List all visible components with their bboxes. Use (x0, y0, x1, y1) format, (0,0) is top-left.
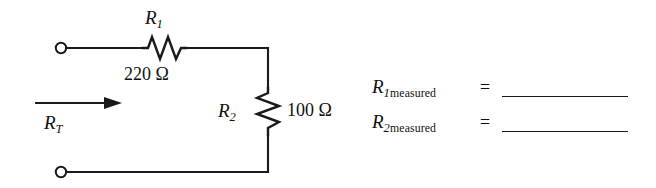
measurement-row-r2: R2measured = (372, 111, 642, 146)
resistor-r1-label: R1 (145, 8, 163, 30)
resistor-r1-symbol-text: R (145, 7, 157, 28)
measurements-block: R1measured = R2measured = (372, 76, 642, 146)
measurement-r1-label: R1measured (372, 76, 436, 101)
resistor-r1-value: 220 Ω (124, 65, 169, 83)
measurement-r2-equals: = (480, 112, 490, 133)
resistor-r1-symbol (143, 37, 186, 59)
measurement-r1-answer-blank[interactable] (502, 96, 628, 97)
resistor-r1-subscript: 1 (157, 17, 163, 31)
measurement-r1-symbol: R (372, 76, 384, 97)
circuit-worksheet-figure: R1 220 Ω R2 100 Ω RT R1measured = R2meas… (0, 0, 656, 188)
measurement-r1-subscript-word: measured (390, 87, 436, 100)
total-resistance-symbol-text: R (44, 112, 56, 133)
resistor-r2-symbol (257, 88, 279, 135)
measurement-row-r1: R1measured = (372, 76, 642, 111)
measurement-r2-label: R2measured (372, 111, 436, 136)
total-resistance-subscript: T (56, 122, 63, 136)
measurement-r1-equals: = (480, 77, 490, 98)
bottom-terminal-icon (56, 167, 66, 177)
resistor-r2-label: R2 (218, 101, 236, 123)
top-terminal-icon (56, 43, 66, 53)
resistor-r2-subscript: 2 (230, 110, 236, 124)
measurement-r2-symbol: R (372, 111, 384, 132)
resistor-r2-symbol-text: R (218, 100, 230, 121)
total-resistance-label: RT (44, 113, 63, 135)
resistor-r2-value: 100 Ω (287, 101, 332, 119)
total-resistance-arrow-head-icon (104, 97, 122, 109)
measurement-r2-subscript-word: measured (390, 122, 436, 135)
measurement-r2-answer-blank[interactable] (502, 131, 628, 132)
